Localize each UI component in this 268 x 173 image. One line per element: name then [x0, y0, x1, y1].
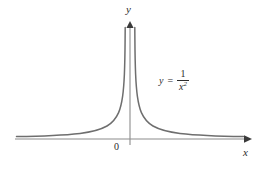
graph-canvas [0, 0, 268, 173]
curve-right-branch [135, 28, 244, 137]
y-axis-label: y [126, 4, 131, 15]
fraction-denominator: x2 [177, 81, 189, 92]
equation-equals-sign: = [167, 76, 173, 86]
curve-left-branch [17, 28, 126, 137]
origin-label: 0 [114, 142, 119, 152]
function-graph-figure: y x 0 y = 1 x2 [0, 0, 268, 173]
x-axis-arrowhead [244, 135, 252, 142]
y-axis-arrowhead [126, 21, 133, 28]
equation-annotation: y = 1 x2 [159, 69, 189, 92]
x-axis-label: x [243, 147, 248, 158]
equation-lhs: y [159, 76, 163, 86]
fraction-numerator: 1 [179, 69, 188, 80]
denominator-exponent: 2 [184, 80, 188, 88]
axes-group [15, 21, 252, 145]
equation-fraction: 1 x2 [177, 69, 189, 92]
